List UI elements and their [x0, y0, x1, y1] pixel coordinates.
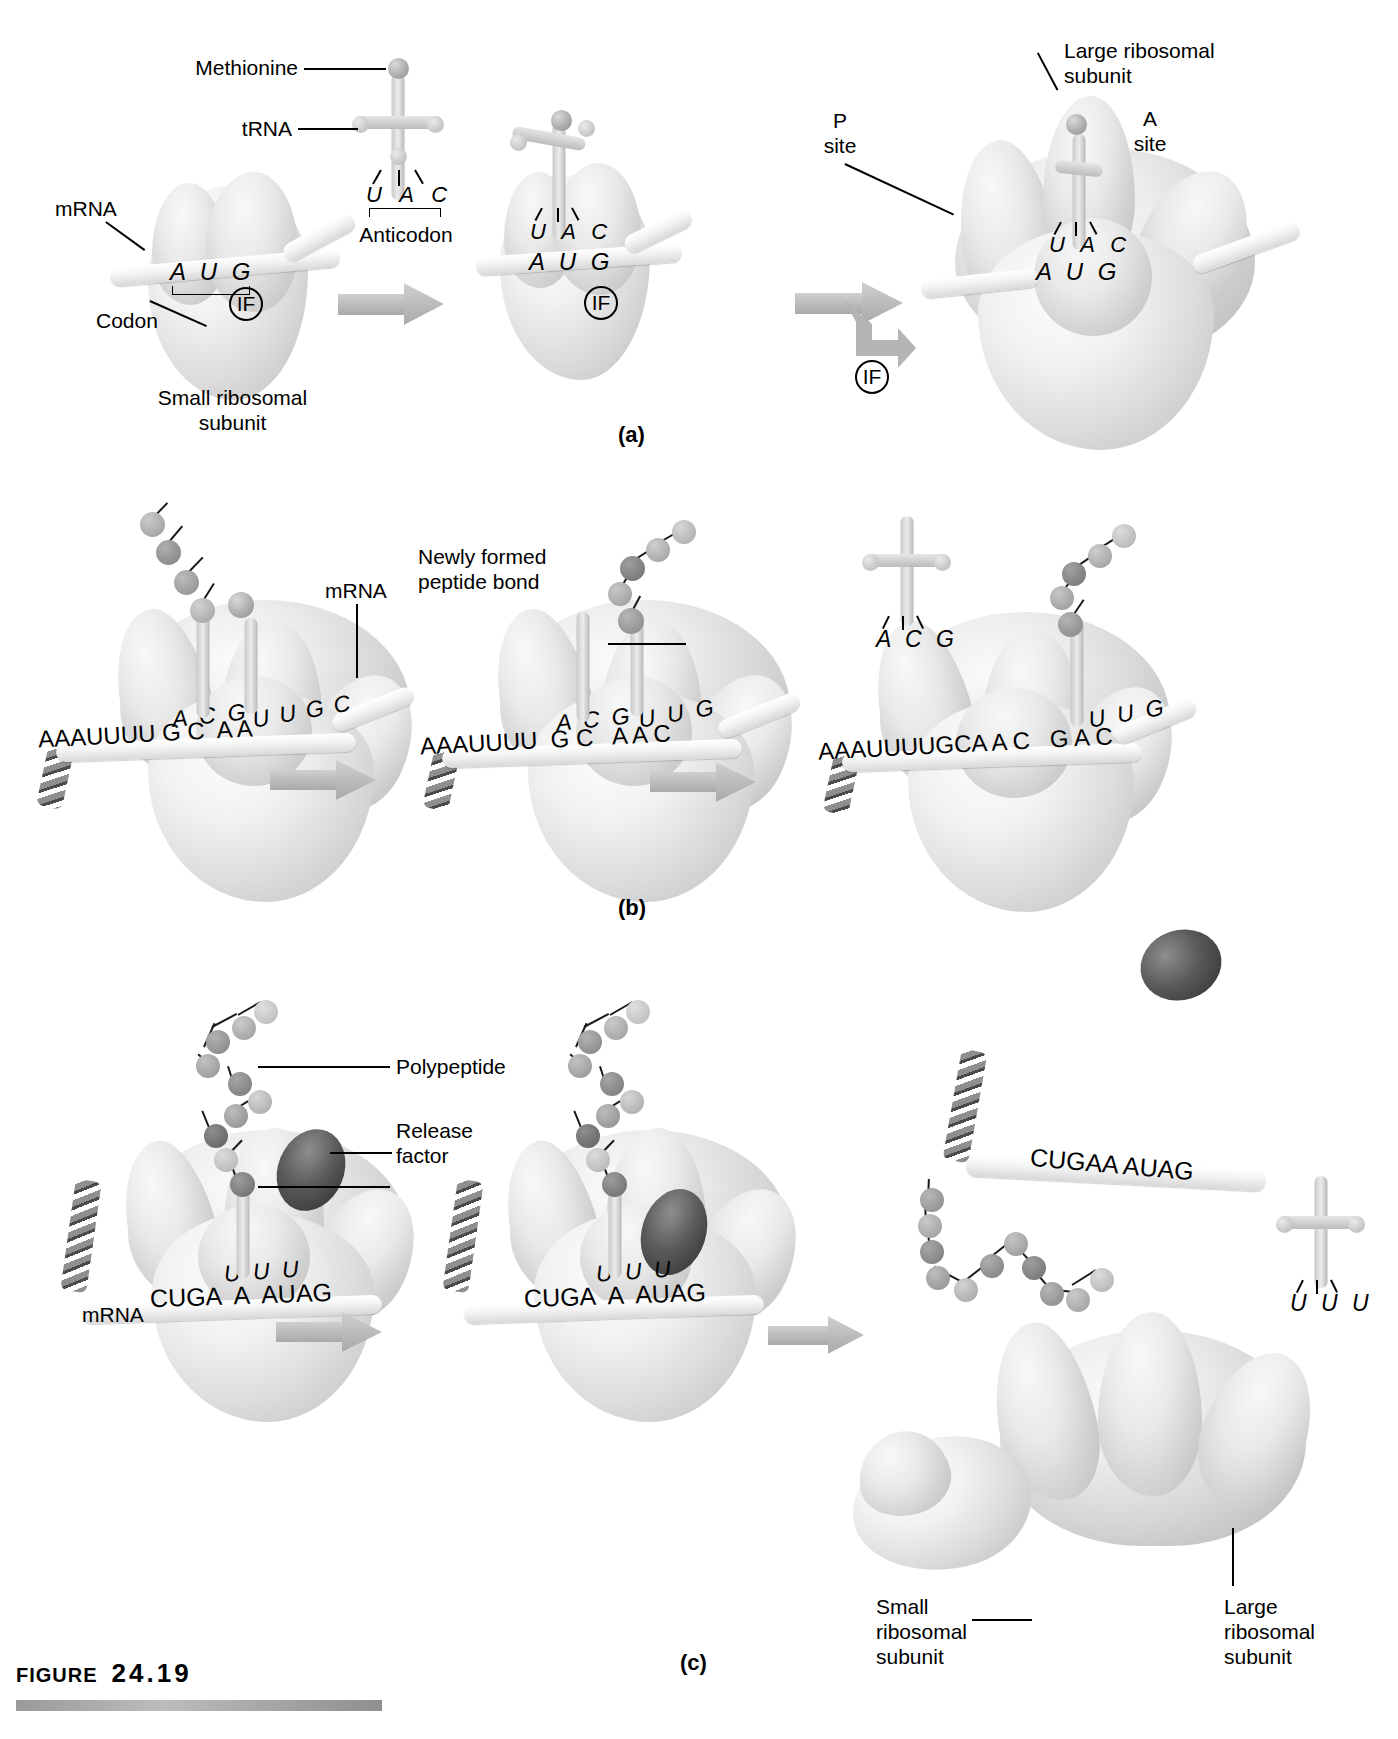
- anticodon-label: Anticodon: [334, 222, 478, 247]
- trna-asite-b1: [240, 618, 262, 714]
- initiation-factor-a2: IF: [584, 286, 618, 320]
- initiation-factor-released: IF: [855, 360, 889, 394]
- trna-arm-knob-right: [1348, 1216, 1365, 1233]
- arrow-b-1: [270, 760, 376, 800]
- trna-arm: [358, 116, 438, 129]
- polypeptide-ball: [254, 1000, 278, 1024]
- anticodon-bases-released-c3: U U U: [1290, 1290, 1373, 1317]
- anticodon-bases-a2: U A C: [530, 219, 612, 245]
- polypeptide-ball: [618, 608, 644, 634]
- polypeptide-ball: [578, 1030, 602, 1054]
- trna-arm-knob-left: [510, 134, 527, 151]
- trna-released-b3: [862, 508, 952, 634]
- trna-stem: [197, 608, 210, 718]
- polypeptide-ball: [586, 1148, 610, 1172]
- p-site-label: P site: [810, 108, 870, 158]
- trna-arm: [1054, 160, 1103, 178]
- panel-letter-c: (c): [680, 1650, 707, 1676]
- polypeptide-ball: [214, 1148, 238, 1172]
- small-subunit-leader-c: [972, 1619, 1032, 1621]
- polypeptide-leader: [258, 1186, 390, 1188]
- figure-caption: Figure 24.19: [16, 1658, 192, 1689]
- polypeptide-ball: [920, 1188, 944, 1212]
- polypeptide-ball: [576, 1124, 600, 1148]
- polypeptide-ball: [228, 1072, 252, 1096]
- polypeptide-ball: [156, 540, 181, 565]
- polypeptide-ball: [672, 520, 696, 544]
- arrow-a-1: [338, 283, 444, 325]
- polypeptide-ball: [1004, 1232, 1028, 1256]
- polypeptide-ball: [620, 1090, 644, 1114]
- mrna-label-a: mRNA: [55, 196, 117, 221]
- polypeptide-ball: [568, 1054, 592, 1078]
- trna-released-c3: [1276, 1170, 1366, 1298]
- large-ribosomal-subunit-label-c: Large ribosomal subunit: [1224, 1594, 1394, 1669]
- polypeptide-ball: [140, 512, 165, 537]
- trna-psite-b1: [190, 608, 216, 718]
- mrna-helix-c1: [60, 1179, 101, 1294]
- polypeptide-ball: [1066, 1288, 1090, 1312]
- methionine-leader: [304, 68, 386, 70]
- trna-leader: [298, 128, 358, 130]
- large-subunit-leader-a: [1037, 52, 1058, 90]
- methionine-ball-a2: [551, 110, 572, 131]
- trna-arm-knob-left: [862, 554, 879, 571]
- polypeptide-leader-line: [258, 1066, 390, 1068]
- codon-label: Codon: [96, 308, 158, 333]
- trna-stem: [245, 618, 258, 714]
- methionine-label: Methionine: [130, 55, 298, 80]
- arrow-c-1: [276, 1312, 382, 1352]
- trna-mid-knob: [390, 148, 407, 165]
- anticodon-bases-a-free: U A C: [366, 182, 453, 208]
- large-ribosomal-subunit-label-a: Large ribosomal subunit: [1064, 38, 1304, 88]
- panel-letter-b: (b): [618, 895, 646, 921]
- arrow-b-2: [650, 762, 756, 802]
- peptide-bond-leader: [608, 643, 686, 645]
- polypeptide-ball: [646, 538, 670, 562]
- codon-bases-a3: A U G: [1036, 258, 1120, 286]
- polypeptide-ball: [954, 1278, 978, 1302]
- initiation-factor-a1: IF: [229, 287, 263, 321]
- polypeptide-ball: [918, 1214, 942, 1238]
- aa-ball-asite-b1: [228, 592, 254, 618]
- polypeptide-ball: [980, 1254, 1004, 1278]
- trna-stem: [1315, 1176, 1328, 1288]
- polypeptide-ball: [206, 1030, 230, 1054]
- polypeptide-ball: [1040, 1282, 1064, 1306]
- polypeptide-ball: [1090, 1268, 1114, 1292]
- arrow-c-2: [768, 1316, 864, 1354]
- polypeptide-label: Polypeptide: [396, 1054, 506, 1079]
- polypeptide-ball: [626, 1000, 650, 1024]
- polypeptide-ball: [230, 1172, 255, 1197]
- trna-arm-knob-left: [1276, 1216, 1293, 1233]
- trna-arm-knob-right: [578, 120, 595, 137]
- anticodon-bases-a3: U A C: [1049, 232, 1131, 258]
- release-factor-leader: [330, 1152, 392, 1154]
- a-site-label: A site: [1120, 106, 1180, 156]
- polypeptide-ball: [1112, 524, 1136, 548]
- trna-arm-knob-right: [427, 116, 444, 133]
- large-subunit-leader-c: [1232, 1528, 1234, 1586]
- polypeptide-ball: [926, 1266, 950, 1290]
- small-ribosomal-subunit-label-a: Small ribosomal subunit: [135, 385, 330, 435]
- mrna-helix-c3: [942, 1049, 987, 1164]
- polypeptide-ball: [596, 1104, 620, 1128]
- mrna-label-b: mRNA: [325, 578, 387, 603]
- polypeptide-ball: [920, 1240, 944, 1264]
- p-site-leader: [845, 163, 954, 215]
- polypeptide-ball: [1062, 562, 1086, 586]
- mrna-helix-c2: [442, 1179, 483, 1294]
- newly-formed-peptide-bond-label: Newly formed peptide bond: [418, 544, 638, 594]
- trna-a3-psite: [1053, 118, 1113, 250]
- mrna-leader-b: [356, 604, 358, 678]
- polypeptide-ball: [1022, 1256, 1046, 1280]
- small-ribosomal-subunit-label-c: Small ribosomal subunit: [876, 1594, 1046, 1669]
- mrna-label-c: mRNA: [82, 1302, 144, 1327]
- trna-stem: [577, 612, 590, 722]
- figure-number: 24.19: [112, 1658, 192, 1689]
- polypeptide-ball: [248, 1090, 272, 1114]
- methionine-ball-a3: [1066, 114, 1087, 135]
- polypeptide-ball: [196, 1054, 220, 1078]
- anticodon-bases-released-b3: A C G: [876, 626, 958, 653]
- polypeptide-ball: [602, 1172, 627, 1197]
